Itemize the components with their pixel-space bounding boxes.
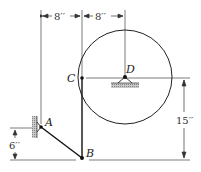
- wall-hatch-a: [32, 116, 37, 138]
- ground-hatch-d: [111, 83, 139, 88]
- label-b: B: [85, 147, 94, 160]
- label-c: C: [67, 72, 76, 85]
- dimension-arrows: [13, 14, 186, 159]
- dimension-label-15in: 15′′: [176, 115, 194, 126]
- label-d: D: [125, 63, 135, 76]
- label-a: A: [44, 116, 53, 129]
- dimension-label-6in: 6′′: [9, 140, 21, 151]
- link-ab: [41, 127, 82, 158]
- point-b: [80, 156, 84, 160]
- mechanics-diagram: 8′′ 8′′ 15′′ 6′′ A B C D: [0, 0, 201, 172]
- dimension-label-left-8in: 8′′: [54, 11, 66, 22]
- point-a: [39, 125, 43, 129]
- point-c: [80, 76, 84, 80]
- dimension-label-right-8in: 8′′: [95, 11, 107, 22]
